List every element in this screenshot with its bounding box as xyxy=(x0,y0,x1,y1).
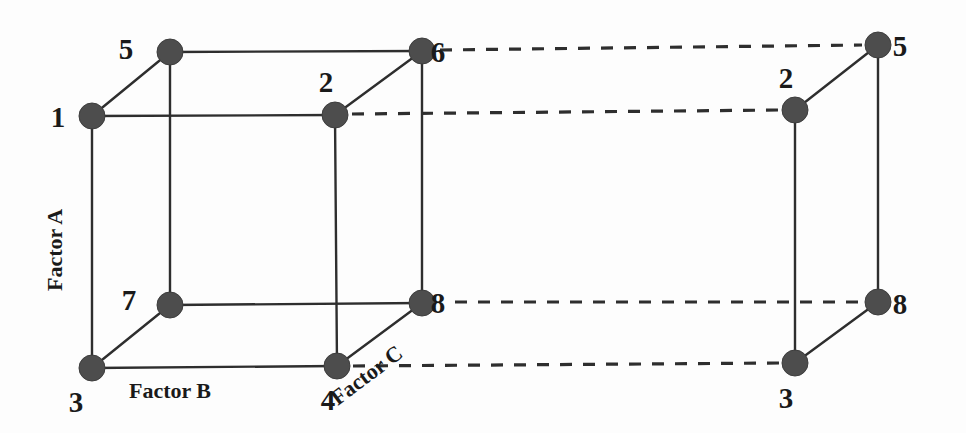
connector-6-to-5 xyxy=(440,45,862,50)
left-cube-vertex-1-dot[interactable] xyxy=(79,103,105,129)
right-cube-vertex-label-R5: 5 xyxy=(893,30,908,62)
axis-label-factor_b: Factor B xyxy=(129,378,211,403)
axis-label-factor_a: Factor A xyxy=(42,209,67,291)
cube-diagram-svg: 15263748 5283 Factor AFactor BFactor C xyxy=(0,0,966,433)
left-cube-vertex-label-L1: 1 xyxy=(51,101,66,133)
left-cube-vertex-label-L5: 5 xyxy=(119,33,134,65)
connector-2-to-2 xyxy=(352,110,780,114)
right-cube-vertex-2-dot[interactable] xyxy=(782,97,808,123)
left-cube-node-layer xyxy=(79,38,435,381)
right-cube-vertex-5-dot[interactable] xyxy=(865,32,891,58)
left-cube-vertex-label-L2: 2 xyxy=(319,66,334,98)
right-cube-vertex-label-R8: 8 xyxy=(893,288,908,320)
left-cube-vertex-label-L6: 6 xyxy=(431,36,446,68)
left-cube-edge-L5-L6 xyxy=(170,51,422,52)
left-cube-edge-L1-L2 xyxy=(92,115,335,116)
right-cube-vertex-8-dot[interactable] xyxy=(865,289,891,315)
factorial-design-diagram: 15263748 5283 Factor AFactor BFactor C xyxy=(0,0,966,433)
right-cube-edge-R2-R5 xyxy=(795,45,878,110)
left-cube-vertex-7-dot[interactable] xyxy=(157,292,183,318)
left-cube-edge-layer xyxy=(92,51,422,368)
left-cube-edge-L3-L4 xyxy=(92,366,337,368)
right-cube-vertex-label-R3: 3 xyxy=(779,382,794,414)
left-cube-vertex-label-L7: 7 xyxy=(122,284,137,316)
left-cube-vertex-label-L8: 8 xyxy=(431,287,446,319)
left-cube-vertex-label-L3: 3 xyxy=(69,386,84,418)
left-cube-vertex-3-dot[interactable] xyxy=(79,355,105,381)
left-cube-vertex-5-dot[interactable] xyxy=(157,39,183,65)
right-cube-node-layer xyxy=(782,32,891,376)
right-cube-vertex-label-R2: 2 xyxy=(779,62,794,94)
connector-4-to-3 xyxy=(353,363,780,366)
right-cube-vertex-3-dot[interactable] xyxy=(782,350,808,376)
right-cube-edge-layer xyxy=(795,45,878,363)
left-cube-vertex-2-dot[interactable] xyxy=(322,102,348,128)
right-cube-edge-R3-R8 xyxy=(795,302,878,363)
left-cube-edge-L2-L4 xyxy=(335,115,337,366)
left-cube-edge-L2-L6 xyxy=(335,51,422,115)
left-cube-edge-L7-L8 xyxy=(170,303,422,305)
